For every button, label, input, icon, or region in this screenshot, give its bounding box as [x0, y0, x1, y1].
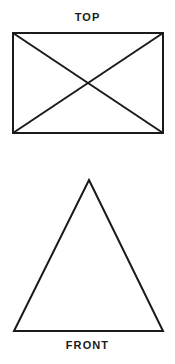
front-view-label: FRONT	[0, 339, 175, 351]
technical-drawing-canvas: TOP FRONT	[0, 0, 175, 364]
front-view-group	[14, 180, 163, 331]
front-view-triangle	[14, 180, 163, 331]
top-view-group	[13, 33, 163, 133]
drawing-geometry	[0, 0, 175, 364]
